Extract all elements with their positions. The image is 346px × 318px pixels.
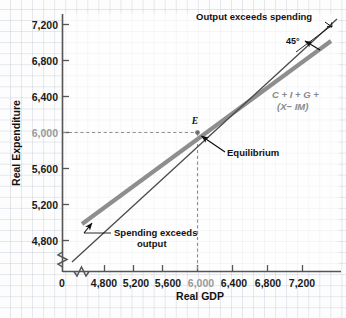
- x-axis-title: Real GDP: [176, 290, 224, 302]
- y-tick-label-6400: 6,400: [32, 91, 58, 103]
- expenditure-line-label-line2: (X− IM): [277, 101, 308, 112]
- expenditure-line-label-line1: C + I + G +: [272, 89, 319, 100]
- equilibrium-marker-label: E: [191, 116, 198, 126]
- x-tick-label-0: 0: [59, 277, 65, 289]
- y-axis-title: Real Expenditure: [10, 100, 22, 186]
- y-tick-label-5200: 5,200: [32, 199, 58, 211]
- chart-figure: 7,200 6,800 6,400 6,000 5,600 5,200 4,80…: [0, 0, 346, 318]
- y-tick-label-7200: 7,200: [32, 19, 58, 31]
- forty-five-degree-label: 45°: [286, 36, 300, 46]
- spending-exceeds-output-annotation-line1: Spending exceeds: [114, 227, 197, 238]
- expenditure-chart: 7,200 6,800 6,400 6,000 5,600 5,200 4,80…: [0, 0, 346, 318]
- x-tick-label-6800: 6,800: [255, 277, 281, 289]
- x-tick-label-6400: 6,400: [221, 277, 247, 289]
- x-tick-label-5600: 5,600: [155, 277, 181, 289]
- output-exceeds-spending-annotation: Output exceeds spending: [196, 11, 312, 22]
- equilibrium-annotation: Equilibrium: [227, 147, 279, 158]
- y-tick-label-6800: 6,800: [32, 55, 58, 67]
- y-tick-label-5600: 5,600: [32, 163, 58, 175]
- equilibrium-point: [195, 130, 200, 135]
- x-tick-label-5200: 5,200: [123, 277, 149, 289]
- x-tick-label-6000: 6,000: [188, 277, 214, 289]
- x-tick-label-7200: 7,200: [289, 277, 315, 289]
- spending-exceeds-output-annotation-line2: output: [137, 238, 167, 249]
- x-tick-label-4800: 4,800: [91, 277, 117, 289]
- y-tick-label-6000: 6,000: [32, 127, 58, 139]
- y-tick-label-4800: 4,800: [32, 235, 58, 247]
